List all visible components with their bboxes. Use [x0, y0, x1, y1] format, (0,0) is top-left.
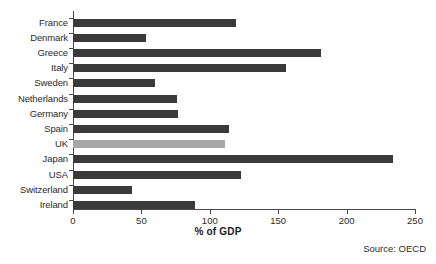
category-label: UK	[0, 139, 68, 149]
bar	[73, 110, 178, 118]
x-tick-label: 50	[136, 215, 147, 226]
category-label: Netherlands	[0, 94, 68, 104]
category-tick-mark	[69, 185, 73, 186]
bar	[73, 155, 393, 163]
category-tick-mark	[69, 63, 73, 64]
bar-chart: FranceDenmarkGreeceItalySwedenNetherland…	[0, 0, 436, 264]
x-tick-mark	[278, 210, 279, 214]
x-tick-mark	[73, 210, 74, 214]
bar	[73, 201, 195, 209]
plot-area	[73, 11, 415, 209]
bar	[73, 64, 286, 72]
category-axis-labels: FranceDenmarkGreeceItalySwedenNetherland…	[0, 11, 68, 209]
x-tick-label: 250	[407, 215, 423, 226]
category-tick-mark	[69, 78, 73, 79]
category-tick-mark	[69, 154, 73, 155]
bar	[73, 79, 155, 87]
category-tick-mark	[69, 170, 73, 171]
bar	[73, 95, 177, 103]
x-tick-label: 200	[339, 215, 355, 226]
category-label: Sweden	[0, 78, 68, 88]
category-label: Germany	[0, 109, 68, 119]
category-tick-mark	[69, 48, 73, 49]
category-tick-mark	[69, 94, 73, 95]
bar	[73, 171, 241, 179]
category-tick-mark	[69, 200, 73, 201]
x-tick-mark	[210, 210, 211, 214]
source-annotation: Source: OECD	[363, 243, 426, 254]
bar	[73, 19, 236, 27]
x-axis-title: % of GDP	[0, 226, 436, 237]
category-label: Spain	[0, 124, 68, 134]
category-tick-mark	[69, 33, 73, 34]
x-tick-label: 100	[202, 215, 218, 226]
bar	[73, 125, 229, 133]
x-tick-mark	[347, 210, 348, 214]
category-label: Japan	[0, 154, 68, 164]
category-label: France	[0, 18, 68, 28]
bar	[73, 34, 146, 42]
category-label: Switzerland	[0, 185, 68, 195]
category-label: Ireland	[0, 200, 68, 210]
category-label: Denmark	[0, 33, 68, 43]
category-tick-mark	[69, 139, 73, 140]
x-tick-mark	[141, 210, 142, 214]
category-label: Greece	[0, 48, 68, 58]
category-label: Italy	[0, 63, 68, 73]
x-axis-ticks: 050100150200250	[73, 210, 416, 226]
x-tick-label: 150	[270, 215, 286, 226]
category-tick-mark	[69, 18, 73, 19]
x-tick-mark	[415, 210, 416, 214]
bar	[73, 140, 225, 148]
category-tick-mark	[69, 124, 73, 125]
x-tick-label: 0	[70, 215, 75, 226]
bar	[73, 49, 321, 57]
category-label: USA	[0, 170, 68, 180]
bar	[73, 186, 132, 194]
category-tick-mark	[69, 109, 73, 110]
